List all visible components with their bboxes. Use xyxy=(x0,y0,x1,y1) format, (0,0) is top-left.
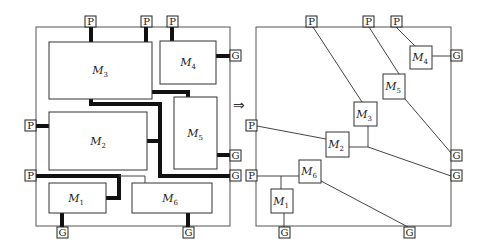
svg-text:G: G xyxy=(232,170,240,181)
power-pin: P xyxy=(363,16,374,27)
power-pin: P xyxy=(85,16,96,27)
module-m1[interactable]: M1 xyxy=(49,183,106,213)
module-m6[interactable]: M6 xyxy=(132,183,212,213)
svg-text:P: P xyxy=(365,16,372,27)
transform-arrow-icon: ⇒ xyxy=(233,97,245,113)
ground-pin: G xyxy=(230,50,241,61)
svg-text:P: P xyxy=(87,16,94,27)
node-m3[interactable]: M3 xyxy=(354,102,377,126)
power-pin: P xyxy=(391,16,402,27)
ground-pin: G xyxy=(451,170,462,181)
svg-text:P: P xyxy=(308,16,315,27)
node-m5[interactable]: M5 xyxy=(383,74,405,99)
module-m2[interactable]: M2 xyxy=(49,112,147,170)
ground-pin: G xyxy=(183,227,194,238)
svg-text:P: P xyxy=(248,170,255,181)
svg-text:P: P xyxy=(27,120,34,131)
svg-text:G: G xyxy=(232,50,240,61)
power-pin: P xyxy=(167,16,178,27)
right-graph: M4 M5 M3 M2 M6 M1 P P P P P G G G G xyxy=(246,16,462,238)
module-m4[interactable]: M4 xyxy=(160,41,216,84)
svg-text:G: G xyxy=(232,150,240,161)
ground-pin: G xyxy=(404,227,415,238)
ground-pin: G xyxy=(451,150,462,161)
ground-pin: G xyxy=(451,50,462,61)
power-pin: P xyxy=(246,120,257,131)
svg-text:G: G xyxy=(453,150,461,161)
ground-pin: G xyxy=(279,227,290,238)
floorplan-to-graph-diagram: M3 M4 M2 M5 M1 M6 P P P P P G G G G xyxy=(0,0,489,252)
power-pin: P xyxy=(141,16,152,27)
power-pin: P xyxy=(306,16,317,27)
svg-text:P: P xyxy=(169,16,176,27)
svg-text:P: P xyxy=(393,16,400,27)
module-m5[interactable]: M5 xyxy=(174,97,217,169)
svg-text:P: P xyxy=(27,170,34,181)
svg-text:G: G xyxy=(281,227,289,238)
power-pin: P xyxy=(25,120,36,131)
svg-text:G: G xyxy=(59,227,67,238)
power-pin: P xyxy=(246,170,257,181)
svg-text:G: G xyxy=(453,170,461,181)
svg-text:G: G xyxy=(453,50,461,61)
node-m6[interactable]: M6 xyxy=(299,160,321,183)
svg-text:G: G xyxy=(406,227,414,238)
ground-pin: G xyxy=(57,227,68,238)
node-m1[interactable]: M1 xyxy=(271,189,293,213)
node-m2[interactable]: M2 xyxy=(326,132,349,157)
power-pin: P xyxy=(25,170,36,181)
svg-text:P: P xyxy=(248,120,255,131)
ground-pin: G xyxy=(230,170,241,181)
node-m4[interactable]: M4 xyxy=(410,46,432,69)
ground-pin: G xyxy=(230,150,241,161)
svg-text:G: G xyxy=(185,227,193,238)
left-floorplan: M3 M4 M2 M5 M1 M6 P P P P P G G G G xyxy=(25,16,241,238)
svg-text:P: P xyxy=(143,16,150,27)
module-m3[interactable]: M3 xyxy=(49,42,152,99)
